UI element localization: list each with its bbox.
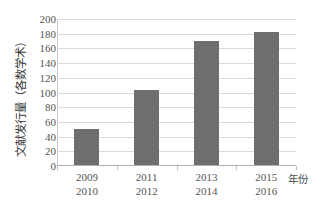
bar: [74, 129, 99, 166]
y-axis-tick-label: 0: [22, 161, 56, 172]
y-axis-tick-label: 140: [22, 58, 56, 69]
y-axis-tick-label: 180: [22, 28, 56, 39]
y-axis-tick-label: 120: [22, 72, 56, 83]
x-category-line-1: 2013: [180, 170, 232, 184]
y-axis-tick-labels: 020406080100120140160180200: [22, 12, 56, 166]
bar: [254, 32, 279, 166]
x-axis-category-label: 20092010: [61, 170, 113, 198]
x-axis-title: 年份: [288, 171, 308, 186]
x-category-line-1: 2015: [240, 170, 292, 184]
y-axis-tick-label: 160: [22, 43, 56, 54]
plot-area: [57, 19, 296, 166]
y-axis-tick-label: 200: [22, 14, 56, 25]
bar-series: [57, 19, 296, 166]
x-category-line-2: 2014: [180, 184, 232, 198]
x-category-line-2: 2016: [240, 184, 292, 198]
x-category-line-1: 2009: [61, 170, 113, 184]
y-axis-tick-label: 40: [22, 131, 56, 142]
y-axis-tick-label: 20: [22, 146, 56, 157]
x-axis-category-label: 20112012: [121, 170, 173, 198]
y-axis-tick-label: 60: [22, 116, 56, 127]
x-category-line-2: 2010: [61, 184, 113, 198]
bar: [134, 90, 159, 166]
x-axis-tick: [296, 166, 297, 170]
x-category-line-2: 2012: [121, 184, 173, 198]
bar: [194, 41, 219, 166]
x-axis-category-labels: 20092010201120122013201420152016: [57, 170, 296, 206]
y-axis-tick-label: 100: [22, 87, 56, 98]
bar-chart: 文献发行量（各数学术） 020406080100120140160180200 …: [0, 0, 321, 212]
x-axis-category-label: 20132014: [180, 170, 232, 198]
x-category-line-1: 2011: [121, 170, 173, 184]
y-axis-tick-label: 80: [22, 102, 56, 113]
x-axis-category-label: 20152016: [240, 170, 292, 198]
